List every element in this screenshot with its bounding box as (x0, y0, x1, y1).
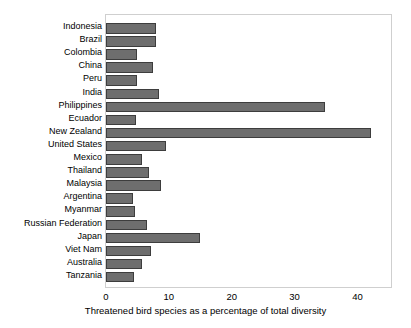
bar (106, 115, 136, 126)
category-label: New Zealand (0, 125, 102, 138)
category-axis-labels: IndonesiaBrazilColombiaChinaPeruIndiaPhi… (0, 15, 102, 287)
category-label: Viet Nam (0, 243, 102, 256)
category-label: United States (0, 138, 102, 151)
bar (106, 180, 161, 191)
chart-container: IndonesiaBrazilColombiaChinaPeruIndiaPhi… (0, 0, 411, 328)
category-label: Argentina (0, 190, 102, 203)
bar (106, 62, 153, 73)
category-label: Thailand (0, 164, 102, 177)
bar (106, 89, 159, 100)
bar (106, 233, 200, 244)
category-label: Colombia (0, 46, 102, 59)
category-label: Australia (0, 256, 102, 269)
bar (106, 128, 371, 139)
category-label: Myanmar (0, 203, 102, 216)
bar (106, 167, 149, 178)
bar (106, 141, 166, 152)
bar (106, 220, 147, 231)
x-tick-label: 0 (103, 291, 108, 302)
bar (106, 259, 142, 270)
bar (106, 36, 156, 47)
bar (106, 23, 156, 34)
bar (106, 154, 142, 165)
category-label: Tanzania (0, 269, 102, 282)
category-label: Malaysia (0, 177, 102, 190)
category-label: Mexico (0, 151, 102, 164)
category-label: India (0, 86, 102, 99)
bar (106, 102, 325, 113)
bar (106, 49, 137, 60)
category-label: Indonesia (0, 20, 102, 33)
category-label: Philippines (0, 99, 102, 112)
x-tick-label: 40 (352, 291, 363, 302)
value-axis: Threatened bird species as a percentage … (0, 288, 411, 328)
bar (106, 75, 137, 86)
bar (106, 206, 135, 217)
category-label: Brazil (0, 33, 102, 46)
bar (106, 246, 151, 257)
category-label: China (0, 59, 102, 72)
category-label: Ecuador (0, 112, 102, 125)
x-tick-label: 30 (289, 291, 300, 302)
x-tick-label: 20 (226, 291, 237, 302)
category-label: Japan (0, 230, 102, 243)
bar (106, 193, 133, 204)
bars-layer (106, 15, 392, 287)
category-label: Peru (0, 72, 102, 85)
bar (106, 272, 134, 283)
x-axis-title: Threatened bird species as a percentage … (0, 305, 411, 316)
x-tick-label: 10 (164, 291, 175, 302)
category-label: Russian Federation (0, 217, 102, 230)
